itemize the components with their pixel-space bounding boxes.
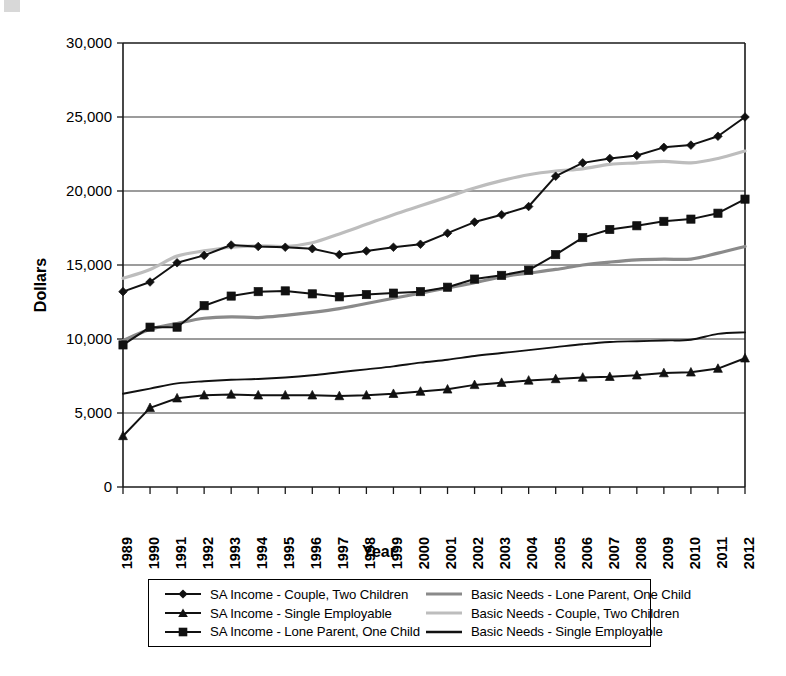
x-axis-title: Year bbox=[362, 543, 396, 560]
data-point-marker bbox=[633, 222, 641, 230]
data-point-marker bbox=[633, 151, 642, 160]
series-line bbox=[123, 199, 745, 345]
x-tick-label: 2011 bbox=[714, 537, 730, 568]
x-tick-label: 2005 bbox=[552, 537, 568, 569]
y-tick-label: 30,000 bbox=[66, 34, 112, 51]
data-point-marker bbox=[416, 240, 425, 249]
series-line bbox=[123, 332, 745, 393]
x-tick-label: 2010 bbox=[687, 537, 703, 569]
chart-legend: SA Income - Couple, Two Children SA Inco… bbox=[148, 579, 651, 647]
y-tick-label: 5,000 bbox=[74, 404, 112, 421]
x-tick-label: 1997 bbox=[335, 537, 351, 569]
series-6 bbox=[123, 332, 745, 393]
data-point-marker bbox=[578, 159, 587, 168]
data-point-marker bbox=[498, 271, 506, 279]
legend-label: Basic Needs - Single Employable bbox=[471, 624, 663, 639]
legend-swatch-diamond-icon bbox=[163, 587, 203, 601]
data-point-marker bbox=[497, 210, 506, 219]
series-line bbox=[123, 358, 745, 436]
data-point-marker bbox=[254, 242, 263, 251]
x-tick-label: 2008 bbox=[633, 537, 649, 569]
legend-item[interactable]: Basic Needs - Couple, Two Children bbox=[424, 604, 659, 623]
data-point-marker bbox=[714, 209, 722, 217]
data-point-marker bbox=[579, 234, 587, 242]
data-point-marker bbox=[389, 243, 398, 252]
x-tick-label: 1995 bbox=[281, 537, 297, 569]
legend-item[interactable]: SA Income - Couple, Two Children bbox=[163, 585, 420, 604]
x-tick-label: 2002 bbox=[470, 537, 486, 569]
data-point-marker bbox=[470, 275, 478, 283]
y-tick-label: 25,000 bbox=[66, 108, 112, 125]
y-tick-label: 0 bbox=[104, 478, 112, 495]
data-point-marker bbox=[308, 244, 317, 253]
data-point-marker bbox=[443, 229, 452, 238]
x-tick-label: 1990 bbox=[146, 537, 162, 569]
x-tick-label: 1989 bbox=[119, 537, 135, 569]
series-3 bbox=[119, 195, 749, 349]
data-point-marker bbox=[525, 266, 533, 274]
data-point-marker bbox=[146, 323, 154, 331]
data-point-marker bbox=[281, 243, 290, 252]
legend-column-left: SA Income - Couple, Two Children SA Inco… bbox=[149, 585, 420, 641]
data-point-marker bbox=[119, 287, 128, 296]
x-tick-label: 2006 bbox=[579, 537, 595, 569]
x-tick-label: 2004 bbox=[524, 537, 540, 569]
legend-swatch-triangle-icon bbox=[163, 606, 203, 620]
series-4 bbox=[123, 247, 745, 341]
data-point-marker bbox=[416, 288, 424, 296]
data-point-marker bbox=[254, 288, 262, 296]
legend-item[interactable]: Basic Needs - Single Employable bbox=[424, 622, 659, 641]
x-tick-label: 2001 bbox=[443, 537, 459, 569]
legend-column-right: Basic Needs - Lone Parent, One Child Bas… bbox=[420, 585, 659, 641]
y-tick-label: 15,000 bbox=[66, 256, 112, 273]
x-tick-label: 1994 bbox=[254, 537, 270, 569]
x-tick-label: 1992 bbox=[200, 537, 216, 569]
legend-label: SA Income - Lone Parent, One Child bbox=[210, 624, 420, 639]
data-point-marker bbox=[606, 225, 614, 233]
data-point-marker bbox=[200, 302, 208, 310]
legend-label: SA Income - Couple, Two Children bbox=[210, 587, 408, 602]
x-tick-label: 1996 bbox=[308, 537, 324, 569]
line-chart-canvas: 05,00010,00015,00020,00025,00030,0001989… bbox=[0, 0, 786, 676]
legend-label: Basic Needs - Couple, Two Children bbox=[471, 606, 679, 621]
data-point-marker bbox=[687, 215, 695, 223]
data-point-marker bbox=[470, 218, 479, 227]
legend-swatch-lightgray-line-icon bbox=[424, 606, 464, 620]
data-point-marker bbox=[227, 292, 235, 300]
data-point-marker bbox=[308, 290, 316, 298]
legend-swatch-gray-line-icon bbox=[424, 587, 464, 601]
x-tick-label: 2007 bbox=[606, 537, 622, 569]
data-point-marker bbox=[443, 283, 451, 291]
y-tick-label: 20,000 bbox=[66, 182, 112, 199]
data-point-marker bbox=[687, 141, 696, 150]
data-point-marker bbox=[741, 353, 750, 362]
series-line bbox=[123, 247, 745, 341]
y-axis-title: Dollars bbox=[32, 258, 49, 312]
data-point-marker bbox=[173, 323, 181, 331]
data-point-marker bbox=[335, 250, 344, 259]
data-point-marker bbox=[660, 143, 669, 152]
legend-swatch-black-line-icon bbox=[424, 625, 464, 639]
data-point-marker bbox=[605, 154, 614, 163]
x-tick-label: 2009 bbox=[660, 537, 676, 569]
legend-label: SA Income - Single Employable bbox=[210, 606, 392, 621]
y-tick-label: 10,000 bbox=[66, 330, 112, 347]
data-point-marker bbox=[741, 195, 749, 203]
x-tick-label: 1993 bbox=[227, 537, 243, 569]
series-2 bbox=[119, 353, 750, 439]
x-tick-label: 2012 bbox=[741, 537, 757, 569]
legend-item[interactable]: Basic Needs - Lone Parent, One Child bbox=[424, 585, 659, 604]
legend-item[interactable]: SA Income - Lone Parent, One Child bbox=[163, 622, 420, 641]
legend-label: Basic Needs - Lone Parent, One Child bbox=[471, 587, 691, 602]
data-point-marker bbox=[281, 287, 289, 295]
data-point-marker bbox=[362, 291, 370, 299]
x-tick-label: 1991 bbox=[173, 537, 189, 569]
data-point-marker bbox=[552, 251, 560, 259]
data-point-marker bbox=[389, 289, 397, 297]
x-tick-label: 2003 bbox=[497, 537, 513, 569]
page-corner-artifact bbox=[4, 0, 20, 12]
data-point-marker bbox=[660, 217, 668, 225]
chart-figure: 05,00010,00015,00020,00025,00030,0001989… bbox=[0, 0, 786, 676]
legend-item[interactable]: SA Income - Single Employable bbox=[163, 604, 420, 623]
series-1 bbox=[119, 113, 750, 296]
